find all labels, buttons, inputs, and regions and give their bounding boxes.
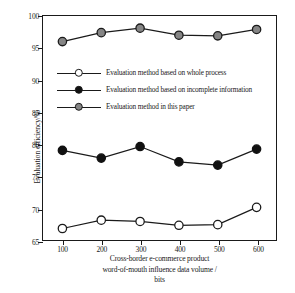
series-line	[62, 28, 256, 41]
chart-figure: Evaluation efficiency/% 6570758085909510…	[0, 0, 295, 293]
x-axis-title: Cross-border e-commerce product word-of-…	[42, 254, 277, 286]
x-axis-title-line3: bits	[42, 275, 277, 286]
legend-marker-filled-circle	[57, 83, 101, 97]
data-point	[97, 28, 105, 36]
legend-item-this-paper: Evaluation method in this paper	[57, 98, 252, 115]
x-axis-title-line2: word-of-mouth influence data volume /	[42, 265, 277, 276]
series-line	[62, 207, 256, 228]
x-tick-label: 400	[175, 245, 186, 254]
legend-marker-open-circle	[57, 66, 101, 80]
y-tick-label: 100	[28, 12, 39, 21]
x-tick-label: 200	[96, 245, 107, 254]
data-point	[58, 37, 66, 45]
y-tick-label: 85	[32, 108, 39, 117]
series-3	[58, 24, 261, 46]
data-point	[175, 158, 183, 166]
y-tick-label: 95	[32, 44, 39, 53]
data-point	[136, 217, 144, 225]
y-tick-label: 75	[32, 173, 39, 182]
legend-label: Evaluation method based on incomplete in…	[101, 85, 252, 94]
y-tick-label: 80	[32, 141, 39, 150]
series-graphics	[43, 16, 276, 240]
data-point	[175, 31, 183, 39]
x-tick-label: 300	[136, 245, 147, 254]
data-point	[58, 146, 66, 154]
x-tick-label: 600	[253, 245, 264, 254]
data-point	[58, 224, 66, 232]
series-2	[58, 142, 261, 169]
data-point	[214, 32, 222, 40]
series-1	[58, 203, 261, 232]
legend-marker-gray-circle	[57, 100, 101, 114]
data-point	[252, 145, 260, 153]
data-point	[214, 220, 222, 228]
y-tick-label: 65	[32, 238, 39, 247]
legend-label: Evaluation method in this paper	[101, 102, 195, 111]
data-point	[136, 24, 144, 32]
legend-item-whole-process: Evaluation method based on whole process	[57, 64, 252, 81]
legend-label: Evaluation method based on whole process	[101, 68, 226, 77]
y-tick-label: 90	[32, 76, 39, 85]
data-layer	[43, 16, 276, 240]
data-point	[97, 216, 105, 224]
chart-legend: Evaluation method based on whole process…	[57, 64, 252, 115]
data-point	[97, 154, 105, 162]
data-point	[252, 203, 260, 211]
x-tick-label: 100	[57, 245, 68, 254]
x-tick-label: 500	[214, 245, 225, 254]
y-tick-label: 70	[32, 205, 39, 214]
x-axis-title-line1: Cross-border e-commerce product	[42, 254, 277, 265]
legend-item-incomplete-information: Evaluation method based on incomplete in…	[57, 81, 252, 98]
plot-area: 65707580859095100 100200300400500600 Eva…	[42, 15, 277, 241]
data-point	[136, 142, 144, 150]
data-point	[252, 25, 260, 33]
data-point	[175, 221, 183, 229]
series-line	[62, 147, 256, 166]
data-point	[214, 161, 222, 169]
